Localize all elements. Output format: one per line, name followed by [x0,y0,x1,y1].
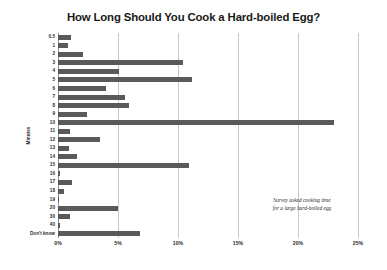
bar-row [58,127,358,136]
y-axis-tick-labels: 0.512345678910111213141516171819203040Do… [0,33,55,238]
bar-row [58,178,358,187]
y-axis-tick-label: 3 [3,60,55,65]
bar-row [58,42,358,51]
y-axis-tick-label: 4 [3,68,55,73]
y-axis-tick-label: Don't know [3,231,55,236]
y-axis-tick-label: 1 [3,43,55,48]
y-axis-tick-label: 19 [3,197,55,202]
bar [58,137,100,142]
y-axis-tick-label: 40 [3,222,55,227]
y-axis-tick-label: 13 [3,145,55,150]
bar-row [58,59,358,68]
y-axis-tick-label: 15 [3,162,55,167]
bar-row [58,84,358,93]
bar [58,69,119,74]
bar-row [58,212,358,221]
bar-row [58,33,358,42]
bar-row [58,170,358,179]
chart-annotation: Survey asked cooking time for a large ha… [247,196,357,213]
bar [58,146,69,151]
bar [58,86,106,91]
bar [58,103,129,108]
y-axis-tick-label: 12 [3,137,55,142]
bar [58,214,70,219]
bar [58,77,192,82]
bar [58,154,77,159]
bar-row [58,110,358,119]
y-axis-tick-label: 9 [3,111,55,116]
bar [58,95,125,100]
bar-row [58,50,358,59]
y-axis-tick-label: 14 [3,154,55,159]
bar [58,231,140,236]
x-axis-tick-label: 5% [98,240,138,246]
bar-row [58,153,358,162]
bar [58,52,83,57]
bar-row [58,144,358,153]
bar-row [58,221,358,230]
x-axis-tick-label: 15% [218,240,258,246]
y-axis-tick-label: 6 [3,86,55,91]
bar-row [58,67,358,76]
bar [58,197,59,202]
bar [58,163,189,168]
bar [58,129,70,134]
y-axis-tick-label: 8 [3,103,55,108]
bar [58,112,87,117]
x-axis-tick-labels: 0%5%10%15%20%25% [0,240,387,254]
bar [58,43,68,48]
annotation-line-2: for a large hard-boiled egg [247,204,357,212]
y-axis-tick-label: 18 [3,188,55,193]
bar-row [58,118,358,127]
bar-row [58,229,358,238]
x-axis-tick-label: 25% [338,240,378,246]
y-axis-tick-label: 5 [3,77,55,82]
bar [58,171,60,176]
bar [58,180,72,185]
bar [58,35,71,40]
y-axis-tick-label: 0.5 [3,34,55,39]
y-axis-tick-label: 16 [3,171,55,176]
bar-row [58,136,358,145]
bar-chart: How Long Should You Cook a Hard-boiled E… [0,0,387,270]
y-axis-tick-label: 7 [3,94,55,99]
gridline-25 [358,33,359,238]
bar [58,223,60,228]
y-axis-tick-label: 11 [3,128,55,133]
bar-row [58,187,358,196]
bar [58,189,64,194]
y-axis-tick-label: 2 [3,51,55,56]
chart-title: How Long Should You Cook a Hard-boiled E… [0,11,387,23]
y-axis-tick-label: 20 [3,205,55,210]
x-axis-tick-label: 10% [158,240,198,246]
bar-row [58,93,358,102]
bar-row [58,101,358,110]
bar [58,120,334,125]
annotation-line-1: Survey asked cooking time [247,196,357,204]
x-axis-tick-label: 0% [38,240,78,246]
bar [58,206,118,211]
bar-row [58,161,358,170]
bar [58,60,183,65]
y-axis-tick-label: 17 [3,179,55,184]
bar-row [58,76,358,85]
x-axis-tick-label: 20% [278,240,318,246]
y-axis-tick-label: 30 [3,214,55,219]
y-axis-tick-label: 10 [3,120,55,125]
